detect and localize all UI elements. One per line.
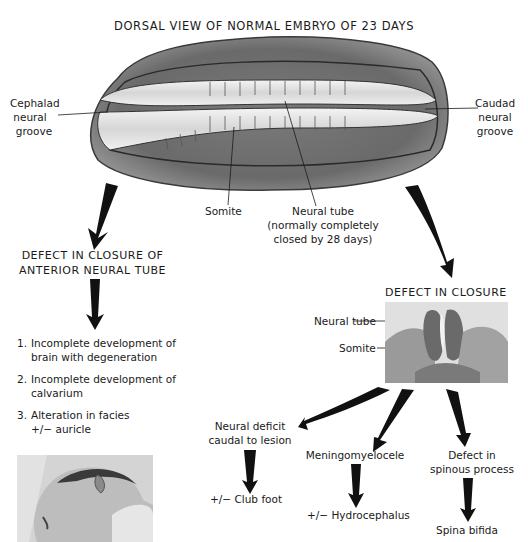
label-line: groove xyxy=(470,124,520,138)
anterior-defect-heading: DEFECT IN CLOSURE OF ANTERIOR NEURAL TUB… xyxy=(10,248,175,278)
arrow-to-spinous-defect xyxy=(446,389,471,447)
outcome-line: Neural deficit xyxy=(205,419,295,433)
arrow-to-anterior-defect xyxy=(88,183,118,250)
section-somite-label: Somite xyxy=(339,341,376,355)
anterior-outcomes-list: 1. Incomplete development of brain with … xyxy=(17,336,197,436)
heading-line: ANTERIOR NEURAL TUBE xyxy=(10,263,175,278)
label-line: Cephalad xyxy=(10,96,58,110)
label-line: groove xyxy=(10,124,58,138)
label-line: Neural tube xyxy=(258,204,388,218)
item-line: Alteration in facies xyxy=(31,408,130,422)
arrow-to-anterior-outcomes xyxy=(86,279,104,330)
closure-defect-heading: DEFECT IN CLOSURE xyxy=(385,285,507,300)
arrow-to-spina-bifida xyxy=(460,478,476,522)
outcome-line: Defect in xyxy=(428,448,516,462)
section-neural-tube-label: Neural tube xyxy=(314,314,376,328)
label-line: neural xyxy=(470,110,520,124)
outcome-line: spinous process xyxy=(428,462,516,476)
list-item: 1. Incomplete development of brain with … xyxy=(17,336,197,364)
item-line: calvarium xyxy=(31,386,176,400)
arrow-to-meningomyelocele xyxy=(373,389,414,452)
outcome-spinous-defect: Defect in spinous process xyxy=(428,448,516,476)
result-club-foot: +/− Club foot xyxy=(210,492,282,506)
item-line: +/− auricle xyxy=(31,422,130,436)
somite-label: Somite xyxy=(205,204,242,218)
item-number: 3. xyxy=(17,408,31,436)
item-text: Incomplete development of calvarium xyxy=(31,372,176,400)
infant-head-photo xyxy=(17,455,153,542)
arrow-to-neural-deficit xyxy=(298,387,390,430)
outcome-neural-deficit: Neural deficit caudal to lesion xyxy=(205,419,295,447)
heading-line: DEFECT IN CLOSURE OF xyxy=(10,248,175,263)
outcome-line: Meningomyelocele xyxy=(305,448,405,462)
item-number: 1. xyxy=(17,336,31,364)
neural-tube-label: Neural tube (normally completely closed … xyxy=(258,204,388,246)
arrow-to-hydrocephalus xyxy=(348,464,364,508)
list-item: 3. Alteration in facies +/− auricle xyxy=(17,408,197,436)
cephalad-neural-groove-label: Cephalad neural groove xyxy=(10,96,58,138)
arrow-to-club-foot xyxy=(242,450,258,494)
outcome-line: caudal to lesion xyxy=(205,433,295,447)
item-text: Alteration in facies +/− auricle xyxy=(31,408,130,436)
caudad-neural-groove-label: Caudad neural groove xyxy=(470,96,520,138)
list-item: 2. Incomplete development of calvarium xyxy=(17,372,197,400)
infant-head-image xyxy=(17,455,153,542)
label-line: Caudad xyxy=(470,96,520,110)
label-line: closed by 28 days) xyxy=(258,232,388,246)
label-line: neural xyxy=(2,110,58,124)
arrow-to-closure-defect xyxy=(405,185,454,278)
result-spina-bifida: Spina bifida xyxy=(436,523,498,537)
item-number: 2. xyxy=(17,372,31,400)
item-text: Incomplete development of brain with deg… xyxy=(31,336,176,364)
outcome-meningomyelocele: Meningomyelocele xyxy=(305,448,405,462)
histology-image xyxy=(385,302,508,383)
item-line: Incomplete development of xyxy=(31,336,176,350)
item-line: brain with degeneration xyxy=(31,350,176,364)
result-hydrocephalus: +/− Hydrocephalus xyxy=(307,508,410,522)
item-line: Incomplete development of xyxy=(31,372,176,386)
embryo-illustration xyxy=(91,37,448,190)
histology-cross-section-photo xyxy=(385,302,508,383)
label-line: (normally completely xyxy=(258,218,388,232)
